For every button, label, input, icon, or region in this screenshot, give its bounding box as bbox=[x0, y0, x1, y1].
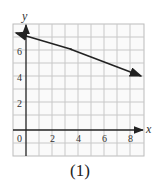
x-tick-8: 8 bbox=[128, 133, 133, 144]
x-tick-2: 2 bbox=[50, 133, 55, 144]
y-tick-6: 6 bbox=[17, 46, 22, 57]
x-tick-6: 6 bbox=[102, 133, 107, 144]
y-axis-label: y bbox=[21, 9, 28, 23]
y-tick-2: 2 bbox=[17, 98, 22, 109]
y-tick-4: 4 bbox=[17, 72, 22, 83]
coordinate-plane: y x 0 2 4 6 8 2 4 6 bbox=[0, 0, 160, 184]
origin-label: 0 bbox=[17, 133, 22, 144]
figure-caption: (1) bbox=[0, 161, 160, 181]
x-axis-label: x bbox=[145, 122, 152, 136]
x-tick-4: 4 bbox=[76, 133, 81, 144]
